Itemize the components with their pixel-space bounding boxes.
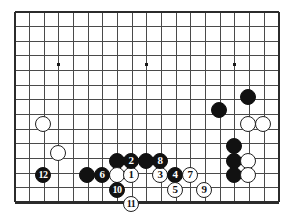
star-point	[233, 63, 236, 66]
stone-number-label: 6	[99, 169, 104, 180]
stone-number-label: 2	[128, 155, 133, 166]
star-point	[145, 63, 148, 66]
go-diagram: 123456789101112	[0, 0, 291, 216]
stone-number-label: 10	[112, 184, 121, 194]
go-board-grid	[0, 0, 291, 216]
stone-number-label: 7	[187, 169, 192, 180]
stone-number-label: 5	[172, 184, 177, 195]
stone-number-label: 1	[128, 169, 133, 180]
stone-number-label: 8	[157, 155, 162, 166]
stone-number-label: 12	[38, 169, 47, 179]
stone-number-label: 11	[127, 198, 135, 208]
stone-number-label: 9	[201, 184, 206, 195]
stone-number-label: 3	[157, 169, 162, 180]
stone-number-label: 4	[172, 169, 177, 180]
star-point	[57, 63, 60, 66]
